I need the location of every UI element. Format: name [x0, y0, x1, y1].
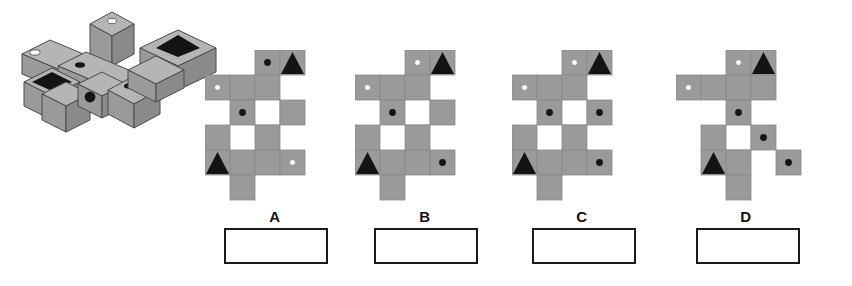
net-cell — [280, 150, 305, 175]
net-cell — [230, 150, 255, 175]
net-cell — [537, 100, 562, 125]
option-label-a: A — [205, 208, 345, 225]
net-cell — [562, 150, 587, 175]
answer-box-b[interactable] — [374, 228, 478, 264]
net-b — [355, 50, 505, 225]
answer-box-a[interactable] — [224, 228, 328, 264]
net-cell — [205, 150, 230, 175]
net-cell — [562, 125, 587, 150]
net-cell — [280, 100, 305, 125]
net-cell — [512, 75, 537, 100]
net-cell — [405, 100, 430, 125]
net-d — [676, 50, 826, 225]
net-cell — [562, 100, 587, 125]
net-a — [205, 50, 355, 225]
net-cell — [587, 150, 612, 175]
net-cell — [355, 125, 380, 150]
net-cell — [255, 75, 280, 100]
net-cell — [255, 150, 280, 175]
net-cell — [405, 125, 430, 150]
net-cell — [587, 50, 612, 75]
option-d[interactable] — [676, 50, 816, 205]
net-cell — [587, 100, 612, 125]
net-cell — [701, 150, 726, 175]
net-cell — [701, 125, 726, 150]
net-cell — [430, 100, 455, 125]
net-cell — [380, 75, 405, 100]
net-cell — [776, 150, 801, 175]
net-cell — [726, 125, 751, 150]
net-cell — [726, 100, 751, 125]
net-cell — [405, 150, 430, 175]
net-cell — [205, 125, 230, 150]
net-cell — [726, 150, 751, 175]
net-cell — [512, 150, 537, 175]
net-cell — [355, 75, 380, 100]
net-cell — [537, 150, 562, 175]
option-label-b: B — [355, 208, 495, 225]
net-cell — [205, 75, 230, 100]
isometric-cube-assembly — [8, 4, 218, 144]
net-cell — [380, 150, 405, 175]
option-c[interactable] — [512, 50, 652, 205]
net-cell — [230, 100, 255, 125]
net-cell — [255, 100, 280, 125]
net-cell — [255, 125, 280, 150]
net-cell — [255, 50, 280, 75]
net-cell — [537, 75, 562, 100]
net-cell — [380, 175, 405, 200]
net-cell — [430, 50, 455, 75]
net-cell — [405, 50, 430, 75]
answer-box-d[interactable] — [696, 228, 800, 264]
net-cell — [230, 75, 255, 100]
net-cell — [355, 150, 380, 175]
net-cell — [751, 125, 776, 150]
net-cell — [701, 75, 726, 100]
net-cell — [726, 175, 751, 200]
net-cell — [230, 175, 255, 200]
net-cell — [562, 75, 587, 100]
net-cell — [280, 50, 305, 75]
answer-box-c[interactable] — [532, 228, 636, 264]
net-c — [512, 50, 662, 225]
net-cell — [380, 100, 405, 125]
net-cell — [512, 125, 537, 150]
option-a[interactable] — [205, 50, 345, 205]
option-b[interactable] — [355, 50, 495, 205]
net-cell — [405, 75, 430, 100]
option-label-d: D — [676, 208, 816, 225]
option-label-c: C — [512, 208, 652, 225]
question-stage: A B C D — [0, 0, 852, 286]
net-cell — [726, 75, 751, 100]
net-cell — [676, 75, 701, 100]
net-cell — [726, 50, 751, 75]
net-cell — [562, 50, 587, 75]
net-cell — [751, 75, 776, 100]
net-cell — [751, 50, 776, 75]
net-cell — [537, 175, 562, 200]
net-cell — [430, 150, 455, 175]
